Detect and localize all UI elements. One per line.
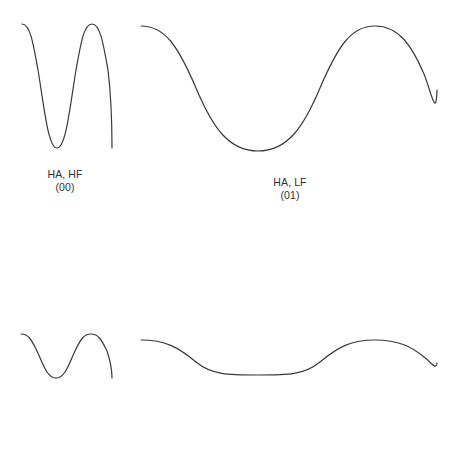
panel-caption-ha-lf: HA, LF (01) [190, 176, 390, 201]
panel-caption-ha-hf: HA, HF (00) [6, 168, 124, 193]
panel-la-hf: LA, HF (10) [0, 230, 130, 461]
waveform-figure: HA, HF (00) HA, LF (01) LA, HF (10) LA, … [0, 0, 456, 461]
panel-ha-lf: HA, LF (01) [130, 0, 456, 230]
waveform-curve-la-lf [130, 230, 456, 461]
waveform-curve-la-hf [0, 230, 130, 461]
panel-code-ha-lf: (01) [190, 189, 390, 202]
panel-la-lf: LA, LF (11) [130, 230, 456, 461]
waveform-curve-ha-hf [0, 0, 130, 230]
panel-code-ha-hf: (00) [6, 181, 124, 194]
panel-ha-hf: HA, HF (00) [0, 0, 130, 230]
panel-label-ha-hf: HA, HF [6, 168, 124, 181]
panel-label-ha-lf: HA, LF [190, 176, 390, 189]
